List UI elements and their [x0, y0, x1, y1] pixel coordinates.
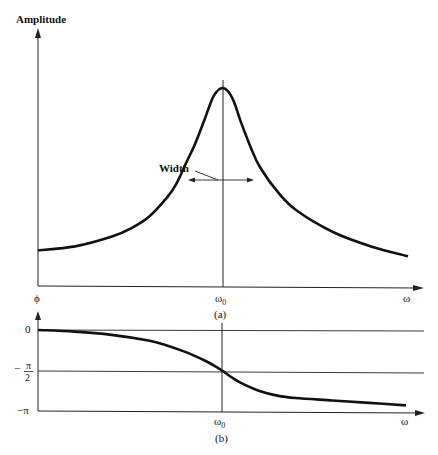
two-denominator-label: 2: [25, 372, 30, 383]
frequency-x-axis-a: [38, 286, 418, 288]
phi-label: ϕ: [34, 292, 40, 304]
width-arrowhead-right: [247, 178, 254, 183]
omega0-tick-label-a: ω0: [215, 292, 226, 307]
zero-tick-label: 0: [25, 323, 31, 335]
panel-b-caption: (b): [215, 432, 228, 445]
x-axis-arrowhead-a: [413, 285, 424, 291]
width-leader-line: [195, 171, 218, 180]
omega-axis-label-a: ω: [403, 292, 410, 304]
y-axis-arrowhead: [35, 28, 41, 38]
phase-y-arrowhead: [35, 311, 41, 320]
width-arrowhead-left: [188, 178, 195, 183]
panel-a-caption: (a): [214, 308, 227, 321]
pi-numerator-label: π: [26, 360, 31, 371]
zero-gridline: [38, 330, 424, 331]
omega-axis-label-b: ω: [401, 415, 408, 427]
omega0-tick-label-b: ω0: [214, 415, 225, 430]
minus-sign-label: −: [14, 362, 20, 374]
figure: Amplitude Width ω0 ω (a) ϕ 0 − π 2 −π ω0…: [0, 0, 438, 455]
minus-pi-tick-label: −π: [17, 404, 29, 416]
minus-half-pi-gridline: [38, 371, 424, 373]
x-axis-arrowhead-b: [415, 410, 425, 416]
amplitude-label: Amplitude: [16, 13, 66, 25]
frequency-x-axis-b: [38, 411, 420, 413]
width-label: Width: [159, 162, 189, 174]
